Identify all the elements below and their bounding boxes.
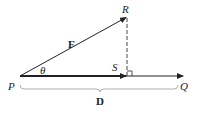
vector-projection-diagram: F θ R S P Q D: [0, 0, 198, 121]
point-r-label: R: [121, 3, 129, 15]
displacement-brace: [20, 85, 178, 92]
displacement-label: D: [96, 95, 104, 107]
point-p-label: P: [7, 80, 15, 92]
angle-label: θ: [40, 64, 46, 76]
force-label: F: [68, 38, 75, 50]
right-angle-marker: [127, 71, 132, 76]
point-q-label: Q: [180, 80, 188, 92]
point-s-label: S: [112, 61, 118, 73]
